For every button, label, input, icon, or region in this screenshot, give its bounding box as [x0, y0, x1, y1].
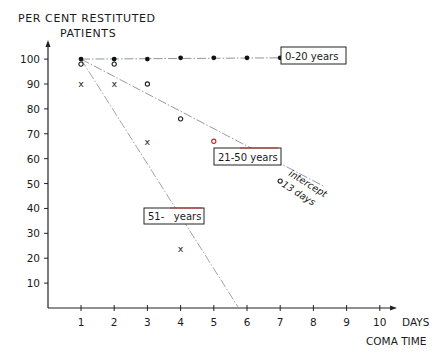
data-point	[112, 57, 117, 62]
data-point: x	[145, 136, 151, 147]
y-tick-label: 70	[27, 128, 40, 140]
label-21-50-years-text: 21-50 years	[218, 152, 278, 163]
x-tick-label: 5	[210, 316, 217, 328]
axes	[48, 44, 392, 308]
y-tick-label: 40	[27, 202, 40, 214]
fit-line	[81, 59, 323, 186]
data-point: x	[178, 243, 184, 254]
y-axis-title-line1: PER CENT RESTITUTED	[18, 12, 156, 25]
y-ticks: 102030405060708090100	[20, 53, 48, 289]
y-axis-title-line2: PATIENTS	[60, 27, 116, 40]
data-point	[212, 139, 216, 143]
x-axis-unit: DAYS	[402, 316, 430, 328]
x-tick-label: 3	[144, 316, 151, 328]
y-tick-label: 90	[27, 78, 40, 90]
data-point	[278, 179, 282, 183]
data-point: x	[111, 78, 117, 89]
y-tick-label: 30	[27, 227, 40, 239]
data-point	[112, 62, 116, 66]
label-51-years: 51- years	[144, 208, 204, 224]
y-axis-arrow-icon	[46, 40, 51, 47]
data-point	[179, 117, 183, 121]
x-tick-label: 9	[343, 316, 350, 328]
label-21-50-years: 21-50 years	[214, 148, 281, 165]
data-point	[211, 55, 216, 60]
data-point	[79, 62, 83, 66]
y-tick-label: 10	[27, 277, 40, 289]
x-tick-label: 7	[277, 316, 284, 328]
y-tick-label: 60	[27, 153, 40, 165]
x-axis-title: COMA TIME	[366, 335, 426, 347]
label-0-20-years-text: 0-20 years	[285, 51, 338, 62]
y-tick-label: 100	[20, 53, 40, 65]
x-tick-label: 10	[373, 316, 386, 328]
x-axis-arrow-icon	[390, 306, 397, 311]
data-point	[145, 82, 149, 86]
x-tick-label: 2	[111, 316, 118, 328]
x-tick-label: 1	[78, 316, 85, 328]
data-point	[145, 57, 150, 62]
data-point	[79, 57, 84, 62]
label-0-20-years: 0-20 years	[281, 47, 346, 64]
label-51-years-text: 51- years	[148, 211, 201, 222]
fit-line	[81, 59, 239, 308]
data-point	[178, 55, 183, 60]
y-tick-label: 50	[27, 178, 40, 190]
x-tick-label: 8	[310, 316, 317, 328]
x-tick-label: 6	[244, 316, 251, 328]
chart: PER CENT RESTITUTED PATIENTS 10203040506…	[0, 0, 444, 362]
y-tick-label: 80	[27, 103, 40, 115]
data-point	[245, 55, 250, 60]
data-point: x	[78, 78, 84, 89]
y-tick-label: 20	[27, 252, 40, 264]
x-tick-label: 4	[177, 316, 184, 328]
